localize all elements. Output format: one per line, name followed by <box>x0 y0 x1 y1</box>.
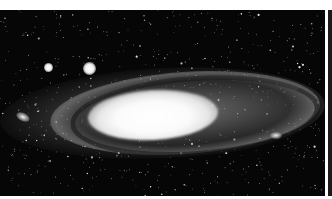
companion-galaxy-small <box>44 63 53 72</box>
adjacent-photo-edge <box>328 10 332 196</box>
galaxy-photograph <box>0 10 325 196</box>
companion-galaxy-large <box>83 62 96 75</box>
star-knot-right <box>270 132 282 139</box>
